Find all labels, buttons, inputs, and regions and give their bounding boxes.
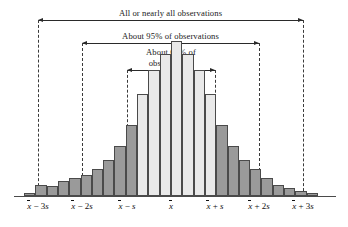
histogram-bar (35, 185, 46, 196)
tick-offset-term: + s (210, 201, 223, 211)
tick-offset-term: − s (122, 201, 135, 211)
x-bar-symbol: x (27, 201, 31, 211)
histogram-bar (69, 178, 80, 196)
tick-offset-term: + 2s (252, 201, 270, 211)
histogram-bar (182, 54, 193, 196)
histogram-bar (92, 169, 103, 196)
x-bar-symbol: x (292, 201, 296, 211)
x-bar-symbol: x (71, 201, 75, 211)
histogram-bar (228, 146, 239, 196)
histogram-bar (114, 146, 125, 196)
tick-offset-term: + 3s (296, 201, 314, 211)
tick-offset-term: − 2s (75, 201, 93, 211)
histogram-bar (216, 125, 227, 196)
histogram-bar (261, 178, 272, 196)
histogram-bar (171, 41, 182, 196)
histogram-plot-area (0, 0, 348, 227)
tick-offset-term: − 3s (31, 201, 49, 211)
x-bar-symbol: x (118, 201, 122, 211)
x-bar-symbol: x (206, 201, 210, 211)
x-bar-symbol: x (248, 201, 252, 211)
histogram-bar (250, 169, 261, 196)
x-bar-symbol: x (169, 201, 173, 211)
standard-deviation-histogram-figure: All or nearly all observationsAbout 95% … (0, 0, 348, 227)
tick-label-x-bar-plus-3s: x + 3s (275, 201, 331, 211)
histogram-bar (205, 94, 216, 196)
histogram-bar (103, 160, 114, 196)
histogram-bar (81, 175, 92, 196)
histogram-bar (47, 186, 58, 196)
histogram-bar (58, 181, 69, 196)
histogram-bar (273, 185, 284, 196)
histogram-bar (284, 188, 295, 196)
histogram-bar (137, 94, 148, 196)
histogram-bar (160, 54, 171, 196)
histogram-bar (239, 160, 250, 196)
histogram-bar (194, 70, 205, 196)
histogram-bar (148, 70, 159, 196)
histogram-bar (126, 125, 137, 196)
x-axis-baseline (14, 196, 336, 197)
